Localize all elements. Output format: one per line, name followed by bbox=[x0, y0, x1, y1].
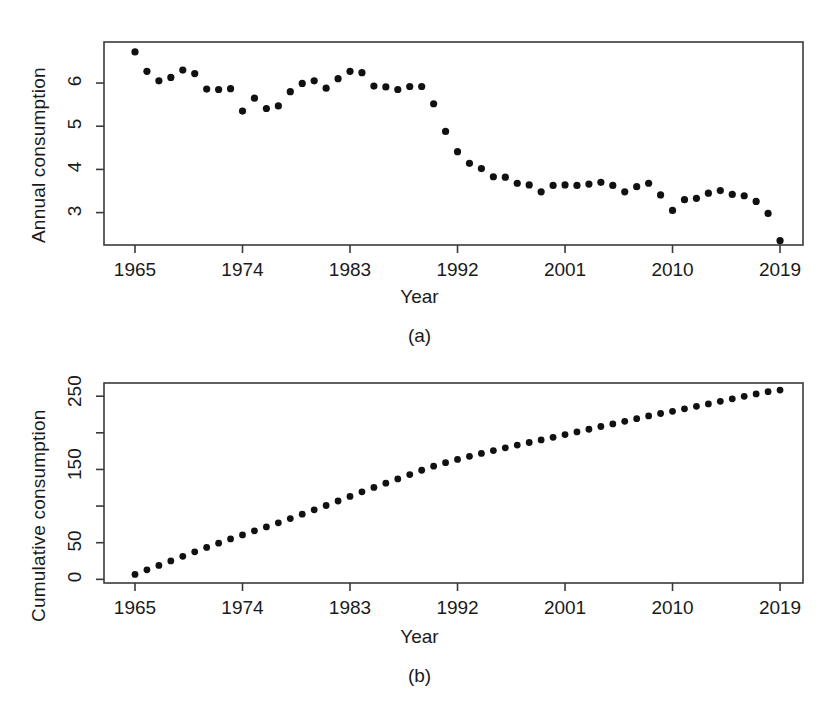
x-tick-label: 2019 bbox=[750, 597, 810, 619]
data-point bbox=[645, 180, 652, 187]
data-point bbox=[526, 181, 533, 188]
y-tick-label: 250 bbox=[64, 381, 86, 407]
data-point bbox=[478, 165, 485, 172]
x-tick-label: 2010 bbox=[643, 597, 703, 619]
data-point bbox=[263, 105, 270, 112]
data-point bbox=[191, 548, 198, 555]
data-point bbox=[741, 192, 748, 199]
data-point bbox=[275, 102, 282, 109]
data-point bbox=[681, 196, 688, 203]
data-point bbox=[251, 527, 258, 534]
x-tick-label: 2001 bbox=[535, 597, 595, 619]
data-point bbox=[669, 207, 676, 214]
data-point bbox=[311, 77, 318, 84]
data-point bbox=[538, 437, 545, 444]
data-point bbox=[203, 85, 210, 92]
data-point bbox=[741, 393, 748, 400]
data-point bbox=[586, 426, 593, 433]
data-point bbox=[144, 566, 151, 573]
data-point bbox=[729, 395, 736, 402]
data-point bbox=[155, 77, 162, 84]
data-point bbox=[609, 420, 616, 427]
data-point bbox=[132, 571, 139, 578]
panel-a: Annual consumption Year (a) 196519741983… bbox=[0, 0, 839, 360]
data-point bbox=[717, 398, 724, 405]
y-tick-label: 3 bbox=[64, 198, 86, 224]
data-point bbox=[514, 442, 521, 449]
data-point bbox=[371, 484, 378, 491]
data-point bbox=[131, 48, 138, 55]
y-tick-label: 4 bbox=[64, 154, 86, 180]
data-point bbox=[430, 100, 437, 107]
data-point bbox=[347, 493, 354, 500]
data-point bbox=[215, 540, 222, 547]
data-point bbox=[299, 80, 306, 87]
data-point bbox=[729, 191, 736, 198]
figure-container: Annual consumption Year (a) 196519741983… bbox=[0, 0, 839, 716]
data-point bbox=[179, 553, 186, 560]
data-point bbox=[621, 188, 628, 195]
data-point bbox=[538, 188, 545, 195]
data-point bbox=[334, 75, 341, 82]
data-point bbox=[705, 400, 712, 407]
x-tick-label: 2019 bbox=[750, 259, 810, 281]
data-point bbox=[454, 148, 461, 155]
data-point bbox=[323, 85, 330, 92]
x-tick-label: 1965 bbox=[105, 597, 165, 619]
data-point bbox=[155, 562, 162, 569]
data-point bbox=[394, 86, 401, 93]
y-tick-label: 0 bbox=[64, 564, 86, 590]
data-points bbox=[132, 387, 784, 578]
data-point bbox=[143, 68, 150, 75]
data-point bbox=[681, 405, 688, 412]
data-point bbox=[167, 558, 174, 565]
panel-caption-b: (b) bbox=[0, 665, 839, 687]
data-point bbox=[657, 191, 664, 198]
y-tick-label: 50 bbox=[64, 528, 86, 554]
data-point bbox=[550, 434, 557, 441]
data-point bbox=[382, 83, 389, 90]
data-point bbox=[633, 415, 640, 422]
data-point bbox=[287, 88, 294, 95]
x-tick-label: 1974 bbox=[213, 597, 273, 619]
data-point bbox=[466, 160, 473, 167]
data-point bbox=[287, 515, 294, 522]
data-point bbox=[167, 74, 174, 81]
data-point bbox=[705, 190, 712, 197]
data-point bbox=[514, 180, 521, 187]
x-tick-label: 2010 bbox=[643, 259, 703, 281]
x-axis-title-year-b: Year bbox=[0, 626, 839, 648]
x-tick-label: 1965 bbox=[105, 259, 165, 281]
data-point bbox=[777, 387, 784, 394]
data-point bbox=[335, 498, 342, 505]
y-tick-label: 5 bbox=[64, 111, 86, 137]
data-point bbox=[609, 182, 616, 189]
data-point bbox=[561, 181, 568, 188]
data-point bbox=[490, 447, 497, 454]
data-point bbox=[442, 459, 449, 466]
data-point bbox=[693, 195, 700, 202]
data-point bbox=[359, 488, 366, 495]
plot-area-b bbox=[0, 360, 839, 620]
data-point bbox=[573, 182, 580, 189]
x-tick-label: 2001 bbox=[535, 259, 595, 281]
data-point bbox=[454, 456, 461, 463]
data-point bbox=[502, 174, 509, 181]
data-point bbox=[776, 237, 783, 244]
data-point bbox=[645, 413, 652, 420]
data-point bbox=[263, 523, 270, 530]
data-point bbox=[466, 453, 473, 460]
data-point bbox=[406, 83, 413, 90]
data-point bbox=[418, 467, 425, 474]
data-point bbox=[621, 418, 628, 425]
scatter-plot-annual bbox=[0, 0, 839, 300]
data-point bbox=[406, 471, 413, 478]
data-point bbox=[275, 519, 282, 526]
data-point bbox=[430, 463, 437, 470]
data-point bbox=[526, 439, 533, 446]
data-point bbox=[394, 475, 401, 482]
data-point bbox=[549, 182, 556, 189]
y-tick-label: 150 bbox=[64, 454, 86, 480]
data-point bbox=[370, 82, 377, 89]
plot-area-a bbox=[0, 0, 839, 300]
